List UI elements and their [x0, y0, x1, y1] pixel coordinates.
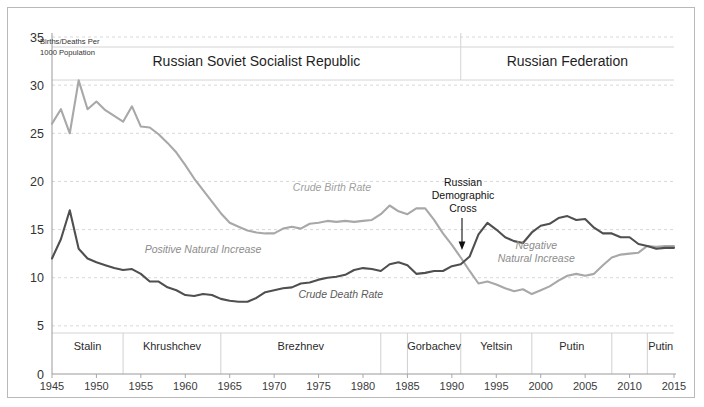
- demographic-cross-label-line2: Demographic: [432, 189, 494, 201]
- negative-natural-increase-label-line2: Natural Increase: [498, 252, 575, 264]
- banner-left-label: Russian Soviet Socialist Republic: [152, 53, 360, 69]
- crude-birth-rate-label: Crude Birth Rate: [293, 181, 371, 193]
- x-tick-labels: 1945195019551960196519701975198019851990…: [40, 374, 686, 392]
- x-tick-label: 1980: [351, 380, 375, 392]
- y-axis-note-line2: 1000 Population: [40, 48, 95, 57]
- y-tick-label: 25: [30, 127, 44, 141]
- crude-death-rate-label: Crude Death Rate: [298, 288, 383, 300]
- x-tick-label: 1970: [262, 380, 286, 392]
- x-tick-label: 1950: [84, 380, 108, 392]
- era-label: Putin: [648, 340, 673, 352]
- x-tick-label: 1945: [40, 380, 64, 392]
- y-tick-labels: 05101520253035: [30, 31, 44, 382]
- y-tick-label: 5: [37, 319, 44, 333]
- y-tick-label: 10: [30, 271, 44, 285]
- x-tick-label: 2010: [617, 380, 641, 392]
- x-tick-label: 1990: [440, 380, 464, 392]
- positive-natural-increase-label: Positive Natural Increase: [145, 243, 262, 255]
- x-tick-label: 2000: [528, 380, 552, 392]
- era-label: Putin: [559, 340, 584, 352]
- axis-group: [52, 33, 676, 374]
- x-tick-label: 2005: [573, 380, 597, 392]
- cross-arrow-icon: [459, 218, 466, 250]
- era-label: Stalin: [74, 340, 102, 352]
- demographic-chart: 05101520253035 1945195019551960196519701…: [0, 0, 704, 407]
- x-tick-label: 1955: [129, 380, 153, 392]
- x-tick-label: 1985: [395, 380, 419, 392]
- era-labels: StalinKhrushchevBrezhnevGorbachevYeltsin…: [74, 340, 673, 352]
- era-label: Gorbachev: [407, 340, 461, 352]
- x-tick-label: 1975: [306, 380, 330, 392]
- demographic-cross-label-line3: Cross: [449, 202, 476, 214]
- y-axis-note-line1: Births/Deaths Per: [40, 37, 100, 46]
- x-tick-label: 2015: [662, 380, 686, 392]
- demographic-cross-label-line1: Russian: [444, 176, 482, 188]
- x-tick-label: 1965: [217, 380, 241, 392]
- era-label: Brezhnev: [278, 340, 325, 352]
- y-tick-label: 15: [30, 223, 44, 237]
- x-tick-label: 1995: [484, 380, 508, 392]
- negative-natural-increase-label-line1: Negative: [516, 239, 558, 251]
- y-tick-label: 30: [30, 79, 44, 93]
- y-tick-label: 20: [30, 175, 44, 189]
- era-label: Khrushchev: [143, 340, 202, 352]
- banner-right-label: Russian Federation: [507, 53, 628, 69]
- chart-svg: 05101520253035 1945195019551960196519701…: [0, 0, 704, 407]
- era-label: Yeltsin: [480, 340, 512, 352]
- x-tick-label: 1960: [173, 380, 197, 392]
